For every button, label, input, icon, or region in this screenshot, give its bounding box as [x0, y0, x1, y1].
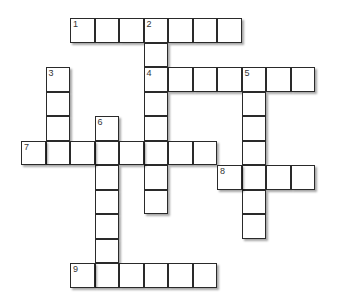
crossword-cell[interactable]: [168, 263, 193, 288]
crossword-cell[interactable]: [144, 141, 169, 166]
crossword-cell[interactable]: [193, 67, 218, 92]
crossword-cell[interactable]: 5: [242, 67, 267, 92]
clue-number: 5: [245, 68, 250, 78]
crossword-cell[interactable]: [46, 92, 71, 117]
crossword-cell[interactable]: [168, 141, 193, 166]
crossword-cell[interactable]: [242, 214, 267, 239]
crossword-cell[interactable]: 6: [95, 116, 120, 141]
crossword-cell[interactable]: [291, 165, 316, 190]
crossword-cell[interactable]: [144, 263, 169, 288]
crossword-cell[interactable]: [119, 141, 144, 166]
crossword-cell[interactable]: [95, 190, 120, 215]
clue-number: 8: [220, 166, 225, 176]
crossword-cell[interactable]: [95, 18, 120, 43]
crossword-cell[interactable]: [242, 141, 267, 166]
crossword-cell[interactable]: [46, 141, 71, 166]
crossword-cell[interactable]: [144, 92, 169, 117]
crossword-cell[interactable]: [95, 239, 120, 264]
crossword-cell[interactable]: [217, 18, 242, 43]
crossword-cell[interactable]: [168, 67, 193, 92]
crossword-cell[interactable]: [95, 165, 120, 190]
crossword-cell[interactable]: [46, 116, 71, 141]
crossword-cell[interactable]: 1: [70, 18, 95, 43]
crossword-cell[interactable]: [119, 18, 144, 43]
crossword-cell[interactable]: [144, 165, 169, 190]
clue-number: 6: [98, 117, 103, 127]
clue-number: 3: [49, 68, 54, 78]
crossword-cell[interactable]: [266, 67, 291, 92]
crossword-cell[interactable]: 3: [46, 67, 71, 92]
crossword-cell[interactable]: [168, 18, 193, 43]
crossword-cell[interactable]: [242, 116, 267, 141]
crossword-cell[interactable]: [144, 43, 169, 68]
crossword-cell[interactable]: [144, 116, 169, 141]
crossword-cell[interactable]: [144, 190, 169, 215]
crossword-cell[interactable]: [119, 263, 144, 288]
clue-number: 9: [73, 264, 78, 274]
crossword-cell[interactable]: [95, 263, 120, 288]
crossword-cell[interactable]: 7: [21, 141, 46, 166]
clue-number: 4: [147, 68, 152, 78]
crossword-cell[interactable]: [242, 190, 267, 215]
crossword-cell[interactable]: [95, 141, 120, 166]
crossword-cell[interactable]: [217, 67, 242, 92]
crossword-cell[interactable]: 8: [217, 165, 242, 190]
clue-number: 7: [24, 142, 29, 152]
crossword-cell[interactable]: [193, 263, 218, 288]
crossword-cell[interactable]: [291, 67, 316, 92]
crossword-cell[interactable]: [70, 141, 95, 166]
crossword-cell[interactable]: [242, 165, 267, 190]
clue-number: 2: [147, 19, 152, 29]
crossword-cell[interactable]: [266, 165, 291, 190]
crossword-cell[interactable]: [95, 214, 120, 239]
crossword-cell[interactable]: 2: [144, 18, 169, 43]
crossword-cell[interactable]: 9: [70, 263, 95, 288]
crossword-cell[interactable]: 4: [144, 67, 169, 92]
crossword-cell[interactable]: [242, 92, 267, 117]
crossword-grid: 124356789: [0, 0, 338, 302]
clue-number: 1: [73, 19, 78, 29]
crossword-cell[interactable]: [193, 18, 218, 43]
crossword-cell[interactable]: [193, 141, 218, 166]
